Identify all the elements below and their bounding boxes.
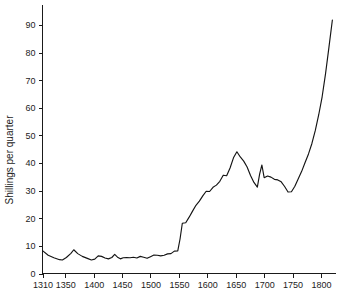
x-tick-label: 1800 xyxy=(311,280,331,290)
y-tick-label: 50 xyxy=(25,131,35,141)
y-tick-label: 30 xyxy=(25,186,35,196)
y-tick-label: 80 xyxy=(25,48,35,58)
wheat-price-line-chart: Shillings per quarter 010203040506070809… xyxy=(0,0,341,305)
data-line-shillings-per-quarter xyxy=(43,20,333,260)
y-tick-label: 70 xyxy=(25,76,35,86)
x-tick-label: 1600 xyxy=(198,280,218,290)
chart-container: Shillings per quarter 010203040506070809… xyxy=(0,0,341,305)
x-tick-label: 1750 xyxy=(283,280,303,290)
y-tick-label: 10 xyxy=(25,241,35,251)
data-series-group xyxy=(43,20,333,260)
x-tick-label: 1550 xyxy=(169,280,189,290)
y-axis-label: Shillings per quarter xyxy=(4,115,15,205)
y-tick-label: 90 xyxy=(25,20,35,30)
x-tick-label: 1350 xyxy=(56,280,76,290)
x-tick-label: 1700 xyxy=(255,280,275,290)
x-tick-label: 1400 xyxy=(84,280,104,290)
y-tick-label: 60 xyxy=(25,103,35,113)
y-axis-label-group: Shillings per quarter xyxy=(4,115,15,205)
x-tick-label: 1450 xyxy=(113,280,133,290)
x-tick-label: 1310 xyxy=(33,280,53,290)
x-tick-label: 1500 xyxy=(141,280,161,290)
x-tick-label: 1650 xyxy=(226,280,246,290)
y-axis-ticks: 0102030405060708090 xyxy=(25,20,42,279)
y-tick-label: 40 xyxy=(25,158,35,168)
x-axis-ticks: 1310135014001450150015501600165017001750… xyxy=(33,274,332,290)
y-tick-label: 20 xyxy=(25,214,35,224)
y-tick-label: 0 xyxy=(30,269,35,279)
